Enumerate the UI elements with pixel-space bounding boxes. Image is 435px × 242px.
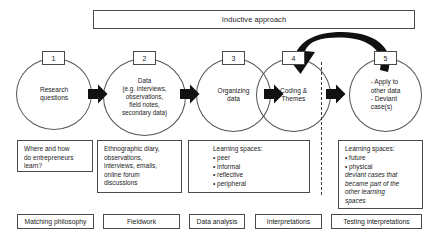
stage-label-3: Organizing data	[214, 87, 254, 104]
stage-number-5: 5	[374, 51, 397, 65]
diagram-canvas: Inductive approach Research questions 1 …	[0, 0, 435, 242]
flow-arrow-1-to-2	[88, 84, 108, 104]
stage-circle-2: Data (e.g. interviews, observations, fie…	[103, 58, 186, 136]
phase-label-fieldwork-text: Fieldwork	[127, 218, 156, 225]
phase-divider-dashed-line	[321, 62, 322, 195]
stage-label-5: - Apply to other data - Deviant case(s)	[367, 78, 405, 112]
learning-spaces-middle-bullets: • peer • informal • reflective • periphe…	[195, 154, 304, 188]
stage-number-3: 3	[222, 51, 245, 65]
note-data-sources-text: Ethnographic diary, observations, interv…	[104, 145, 176, 188]
learning-spaces-right-italic-note: deviant cases that became part of the ot…	[345, 171, 417, 205]
note-research-question: Where and how do entrepreneurs learn?	[17, 140, 93, 172]
learning-spaces-right-heading: Learning spaces:	[345, 145, 417, 154]
note-learning-spaces-right: Learning spaces: • future • physical dev…	[338, 140, 423, 209]
stage-label-2: Data (e.g. interviews, observations, fie…	[118, 77, 171, 117]
inductive-approach-banner: Inductive approach	[93, 10, 415, 29]
note-research-question-text: Where and how do entrepreneurs learn?	[24, 145, 87, 171]
phase-label-matching-philosophy-text: Matching philosophy	[25, 218, 87, 225]
inductive-approach-label: Inductive approach	[222, 15, 286, 24]
flow-arrow-2-to-3	[180, 84, 200, 104]
phase-label-data-analysis-text: Data analysis	[197, 218, 238, 225]
phase-label-testing-interpretations: Testing interpretations	[331, 214, 422, 229]
phase-label-fieldwork: Fieldwork	[103, 214, 180, 229]
phase-label-data-analysis: Data analysis	[189, 214, 245, 229]
stage-number-4: 4	[282, 51, 305, 65]
flow-arrow-3-to-4	[264, 84, 284, 104]
stage-label-1: Research questions	[36, 86, 72, 103]
phase-label-matching-philosophy: Matching philosophy	[17, 214, 94, 229]
note-learning-spaces-middle: Learning spaces: • peer • informal • ref…	[188, 140, 310, 193]
stage-number-2: 2	[133, 51, 156, 65]
flow-arrow-4-to-5	[326, 84, 346, 104]
phase-label-testing-interpretations-text: Testing interpretations	[343, 218, 410, 225]
phase-label-interpretations-text: Interpretations	[267, 218, 310, 225]
stage-number-1: 1	[42, 51, 65, 65]
learning-spaces-middle-heading: Learning spaces:	[195, 145, 304, 154]
phase-label-interpretations: Interpretations	[255, 214, 322, 229]
learning-spaces-right-bullets: • future • physical	[345, 154, 417, 171]
stage-circle-1: Research questions	[16, 58, 92, 130]
note-data-sources: Ethnographic diary, observations, interv…	[97, 140, 182, 193]
